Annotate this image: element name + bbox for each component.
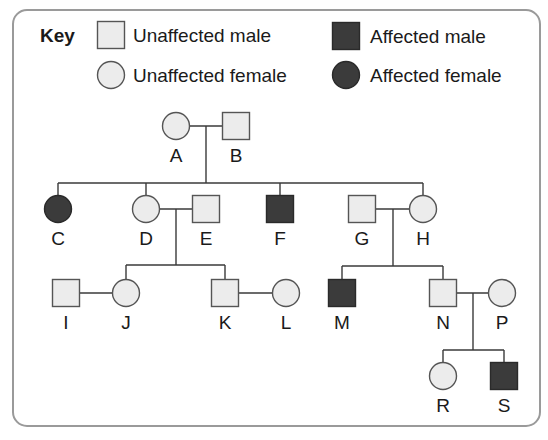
individual-label: P (496, 312, 509, 333)
affected-male-icon (329, 280, 356, 307)
key-item-label: Affected female (370, 65, 502, 86)
key-title: Key (40, 25, 75, 46)
key-item: Unaffected male (98, 22, 272, 49)
unaffected-female-icon (98, 62, 125, 89)
key-item-label: Affected male (370, 26, 486, 47)
affected-male-icon (333, 23, 360, 50)
key-item-label: Unaffected male (133, 25, 271, 46)
individual-label: I (63, 312, 68, 333)
unaffected-male-icon (98, 22, 125, 49)
affected-male-icon (491, 363, 518, 390)
key-item: Affected male (333, 23, 486, 50)
unaffected-female-icon (430, 363, 457, 390)
individual-label: D (139, 228, 153, 249)
individual-label: F (274, 228, 286, 249)
unaffected-female-icon (489, 280, 516, 307)
individual-label: R (436, 395, 450, 416)
individual-label: C (51, 228, 65, 249)
individual-label: E (200, 228, 213, 249)
individual-label: M (334, 312, 350, 333)
individual-label: B (230, 145, 243, 166)
individual-label: G (355, 228, 370, 249)
individual-label: J (121, 312, 131, 333)
individual-label: N (436, 312, 450, 333)
key-item-label: Unaffected female (133, 65, 287, 86)
individual-label: A (170, 145, 183, 166)
individual-label: K (219, 312, 232, 333)
unaffected-female-icon (133, 196, 160, 223)
unaffected-male-icon (193, 196, 220, 223)
unaffected-male-icon (430, 280, 457, 307)
unaffected-male-icon (53, 280, 80, 307)
unaffected-male-icon (212, 280, 239, 307)
individual-label: L (281, 312, 292, 333)
affected-female-icon (333, 62, 360, 89)
unaffected-male-icon (349, 196, 376, 223)
affected-female-icon (45, 196, 72, 223)
unaffected-female-icon (163, 113, 190, 140)
unaffected-female-icon (410, 196, 437, 223)
individual-label: S (498, 395, 511, 416)
pedigree-diagram: Key Unaffected maleUnaffected femaleAffe… (0, 0, 548, 440)
unaffected-female-icon (273, 280, 300, 307)
affected-male-icon (267, 196, 294, 223)
individual-label: H (416, 228, 430, 249)
unaffected-male-icon (223, 113, 250, 140)
unaffected-female-icon (113, 280, 140, 307)
